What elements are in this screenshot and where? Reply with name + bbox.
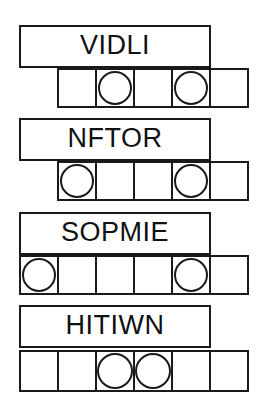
answer-cell-row-3 [19,255,249,295]
circle-marker-icon [97,353,133,389]
answer-cell[interactable] [209,68,249,108]
answer-cell[interactable] [209,255,249,295]
word-text-3: SOPMIE [61,219,169,246]
circle-marker-icon [60,164,94,198]
word-box-2: NFTOR [19,118,211,161]
answer-cell-row-2 [57,161,249,201]
word-box-3: SOPMIE [19,212,211,255]
answer-cell[interactable] [133,68,173,108]
circle-marker-icon [135,353,171,389]
answer-cell[interactable] [57,350,97,392]
word-text-2: NFTOR [68,125,163,152]
worksheet-sheet: VIDLI NFTOR [0,0,267,408]
answer-cell[interactable] [57,161,97,201]
answer-cell[interactable] [133,350,173,392]
answer-cell[interactable] [133,161,173,201]
answer-cell-row-4 [19,350,249,392]
word-text-4: HITIWN [66,312,165,339]
answer-cell[interactable] [209,161,249,201]
answer-cell[interactable] [171,255,211,295]
answer-cell[interactable] [171,161,211,201]
answer-cell[interactable] [57,68,97,108]
word-box-1: VIDLI [19,25,211,68]
answer-cell[interactable] [19,350,59,392]
answer-cell-row-1 [57,68,249,108]
word-box-4: HITIWN [19,305,211,348]
circle-marker-icon [22,258,56,292]
answer-cell[interactable] [95,255,135,295]
answer-cell[interactable] [19,255,59,295]
answer-cell[interactable] [133,255,173,295]
circle-marker-icon [98,71,132,105]
answer-cell[interactable] [171,68,211,108]
answer-cell[interactable] [209,350,249,392]
circle-marker-icon [174,258,208,292]
answer-cell[interactable] [171,350,211,392]
circle-marker-icon [174,71,208,105]
answer-cell[interactable] [95,161,135,201]
answer-cell[interactable] [57,255,97,295]
answer-cell[interactable] [95,350,135,392]
circle-marker-icon [174,164,208,198]
answer-cell[interactable] [95,68,135,108]
word-text-1: VIDLI [80,32,150,59]
